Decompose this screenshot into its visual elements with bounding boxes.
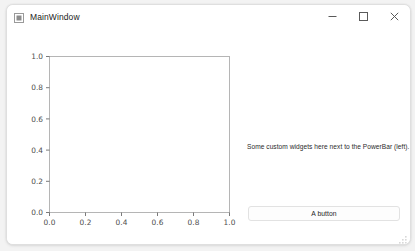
ytick-label: 0.4 <box>31 146 43 155</box>
main-window: MainWindow <box>6 4 411 245</box>
close-button[interactable] <box>379 5 410 30</box>
minimize-button[interactable] <box>317 5 348 30</box>
matplotlib-canvas[interactable]: 0.0 0.2 0.4 0.6 0.8 1.0 <box>21 44 245 239</box>
resize-grip[interactable] <box>397 231 408 242</box>
xtick-label: 0.6 <box>152 218 164 227</box>
ytick-label: 1.0 <box>31 52 43 61</box>
title-bar-left: MainWindow <box>7 5 80 30</box>
xtick-label: 1.0 <box>224 218 236 227</box>
a-button[interactable]: A button <box>248 206 400 221</box>
ytick-label: 0.2 <box>31 177 43 186</box>
custom-widgets-panel: Some custom widgets here next to the Pow… <box>247 38 402 238</box>
ytick-label: 0.6 <box>31 115 43 124</box>
xtick-label: 0.0 <box>44 218 56 227</box>
maximize-icon <box>358 10 369 25</box>
window-controls <box>317 5 410 30</box>
close-icon <box>389 10 400 25</box>
title-bar[interactable]: MainWindow <box>7 5 410 30</box>
window-icon <box>14 13 24 23</box>
client-area: 0.0 0.2 0.4 0.6 0.8 1.0 <box>7 30 410 244</box>
xtick-label: 0.4 <box>116 218 128 227</box>
window-title: MainWindow <box>30 13 80 22</box>
xtick-label: 0.8 <box>188 218 200 227</box>
custom-widgets-note: Some custom widgets here next to the Pow… <box>247 143 402 151</box>
app-root: MainWindow <box>0 0 415 251</box>
xtick-label: 0.2 <box>80 218 92 227</box>
minimize-icon <box>327 10 338 25</box>
maximize-button[interactable] <box>348 5 379 30</box>
axes-frame <box>50 57 230 213</box>
ytick-label: 0.8 <box>31 83 43 92</box>
ytick-label: 0.0 <box>31 208 43 217</box>
